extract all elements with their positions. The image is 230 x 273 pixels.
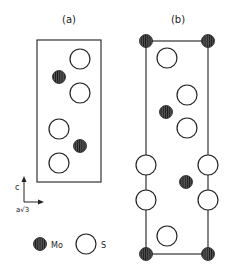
legend-s-swatch	[76, 234, 96, 254]
molybdenum-atom	[53, 71, 66, 84]
sulfur-atom	[198, 155, 218, 175]
a-axis-label: a√3	[16, 206, 29, 214]
c-axis-arrowhead	[22, 176, 27, 182]
molybdenum-atom	[140, 35, 153, 48]
molybdenum-atom	[140, 248, 153, 261]
sulfur-atom	[157, 48, 177, 68]
molybdenum-atom	[202, 35, 215, 48]
legend-mo-label: Mo	[51, 241, 63, 250]
legend-mo-swatch	[34, 238, 47, 251]
panel-a-label: (a)	[62, 14, 76, 25]
sulfur-atom	[198, 190, 218, 210]
panel-b-unit-cell	[146, 41, 208, 254]
panel-b-label: (b)	[171, 14, 185, 25]
molybdenum-atom	[74, 140, 87, 153]
a-axis-arrowhead	[38, 200, 44, 205]
sulfur-atom	[157, 226, 177, 246]
panel-b-atoms	[136, 35, 218, 261]
sulfur-atom	[136, 190, 156, 210]
crystal-structure-diagram: (a) (b) c a√3	[0, 0, 230, 273]
molybdenum-atom	[160, 106, 173, 119]
c-axis-label: c	[15, 183, 19, 192]
legend: Mo S	[34, 234, 107, 254]
sulfur-atom	[136, 155, 156, 175]
molybdenum-atom	[180, 176, 193, 189]
sulfur-atom	[70, 83, 90, 103]
sulfur-atom	[70, 49, 90, 69]
legend-s-label: S	[101, 241, 106, 250]
sulfur-atom	[49, 119, 69, 139]
molybdenum-atom	[202, 248, 215, 261]
sulfur-atom	[177, 85, 197, 105]
panel-a-atoms	[49, 49, 90, 173]
sulfur-atom	[177, 118, 197, 138]
sulfur-atom	[49, 153, 69, 173]
